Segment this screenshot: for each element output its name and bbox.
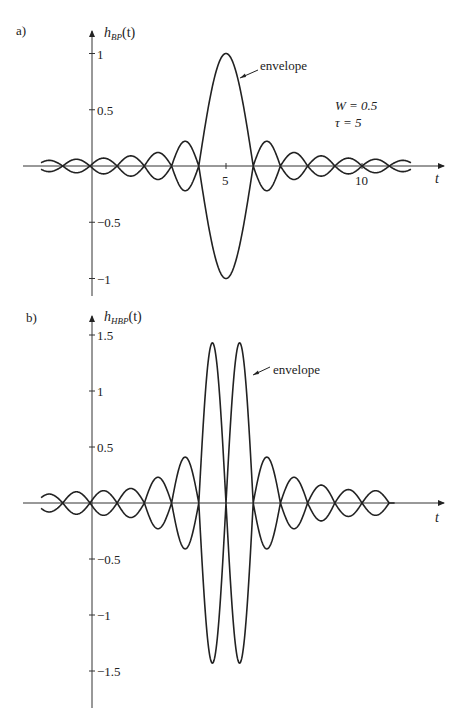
annotation-envelope-b: envelope — [273, 362, 320, 377]
y-tick-label: 0.5 — [97, 103, 113, 118]
chart-b: b) hHBP(t) 1.510.5−0.5−1−1.5 t envelope — [23, 309, 444, 708]
chart-a: a) hBP(t) 10.5−0.5−1 510 t envelope W = … — [16, 23, 444, 296]
y-tick-label: 0.5 — [97, 440, 113, 455]
y-tick-label: 1.5 — [97, 328, 113, 343]
y-axis-title-a: hBP(t) — [104, 25, 136, 42]
panel-label-a: a) — [16, 23, 26, 38]
x-tick-label: 10 — [355, 173, 368, 188]
y-tick-label: 1 — [97, 384, 104, 399]
x-tick-label: 5 — [222, 173, 229, 188]
y-tick-label: −1 — [97, 608, 111, 623]
x-axis-title-b: t — [435, 510, 440, 525]
y-tick-label: −0.5 — [97, 552, 121, 567]
y-tick-label: 1 — [97, 47, 104, 62]
y-axis-title-b: hHBP(t) — [104, 309, 142, 326]
figure: a) hBP(t) 10.5−0.5−1 510 t envelope W = … — [0, 0, 461, 727]
param-w: W = 0.5 — [335, 98, 378, 113]
y-tick-label: −1 — [97, 272, 111, 287]
y-tick-label: −1.5 — [97, 664, 121, 679]
annotation-envelope-a: envelope — [260, 58, 307, 73]
panel-label-b: b) — [26, 310, 37, 325]
x-ticks-a: 510 — [222, 163, 368, 188]
y-tick-label: −0.5 — [97, 215, 121, 230]
x-axis-title-a: t — [435, 171, 440, 186]
param-tau: τ = 5 — [335, 115, 362, 130]
